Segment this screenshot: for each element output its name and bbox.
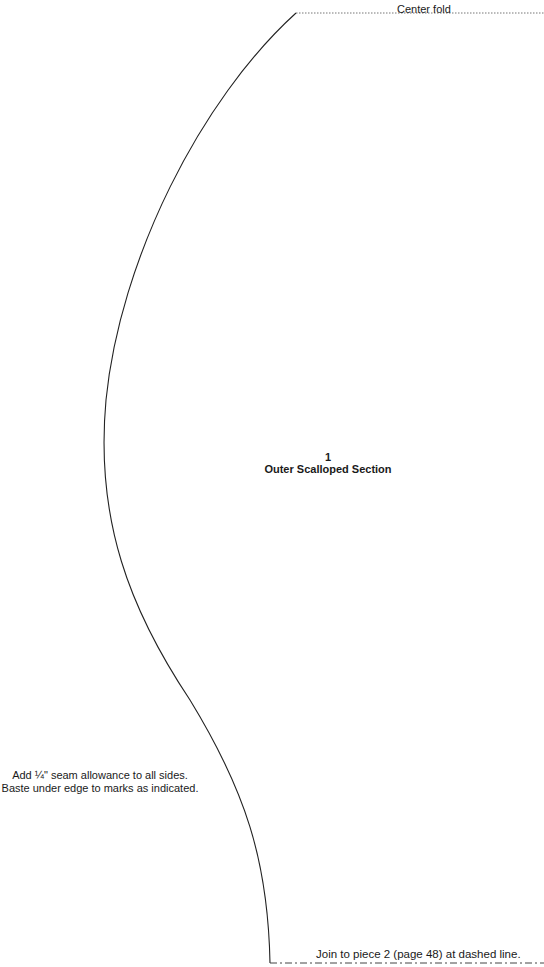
join-instruction: Join to piece 2 (page 48) at dashed line…	[316, 948, 521, 961]
sewing-notes: Add ¼" seam allowance to all sides. Bast…	[0, 769, 200, 795]
seam-allowance-note: Add ¼" seam allowance to all sides.	[0, 769, 200, 782]
piece-name: Outer Scalloped Section	[255, 463, 401, 475]
pattern-outline	[0, 0, 544, 967]
piece-number: 1	[255, 451, 401, 463]
scallop-cutting-line	[104, 13, 296, 963]
center-fold-label: Center fold	[397, 3, 451, 16]
piece-title: 1 Outer Scalloped Section	[255, 451, 401, 475]
baste-note: Baste under edge to marks as indicated.	[0, 782, 200, 795]
